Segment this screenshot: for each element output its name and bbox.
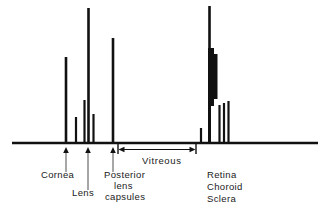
label-choroid: Choroid [207, 181, 243, 192]
label-lens: Lens [72, 187, 94, 198]
vitreous-arrow-left-head [119, 147, 125, 152]
label-cornea: Cornea [41, 169, 75, 180]
posterior-lens-capsules-marker-arrowhead [110, 147, 116, 153]
a-scan-figure: Vitreous Cornea Lens Posterior lens caps… [0, 0, 333, 218]
label-vitreous: Vitreous [142, 155, 181, 166]
choroid-sclera-block [208, 48, 218, 143]
lens-marker-arrowhead [85, 147, 91, 153]
cornea-marker-arrowhead [63, 147, 69, 153]
label-posterior-lens-capsules-line3: capsules [105, 191, 145, 202]
label-posterior-lens-capsules-line2: lens [114, 180, 133, 191]
label-posterior-lens-capsules-line1: Posterior [104, 169, 145, 180]
vitreous-arrow-right-head [190, 147, 196, 152]
a-scan-chart: Vitreous Cornea Lens Posterior lens caps… [0, 0, 333, 218]
label-sclera: Sclera [207, 193, 236, 204]
label-retina: Retina [207, 169, 237, 180]
